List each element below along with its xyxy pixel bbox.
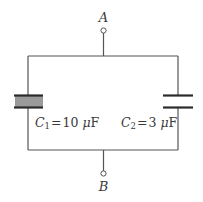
c1-equals: = xyxy=(51,115,61,130)
c1-unit-prefix: μ xyxy=(82,115,90,130)
terminal-a-label: A xyxy=(98,10,108,25)
c2-symbol: C xyxy=(121,115,131,130)
terminal-b-label: B xyxy=(98,179,109,194)
capacitor-c2 xyxy=(163,96,193,108)
terminal-b: B xyxy=(98,171,109,194)
c1-symbol: C xyxy=(35,115,45,130)
c1-dielectric xyxy=(15,96,43,107)
c2-label: C2=3μF xyxy=(121,115,178,131)
terminal-a: A xyxy=(98,10,108,33)
circuit-wires xyxy=(28,33,178,171)
parallel-capacitor-circuit: A B C1=10μF C2=3μF xyxy=(0,0,203,202)
capacitor-c1 xyxy=(14,96,43,108)
c2-equals: = xyxy=(137,115,147,130)
c1-subscript: 1 xyxy=(45,121,50,131)
c2-value: 3 xyxy=(148,115,156,130)
c1-value: 10 xyxy=(62,115,78,130)
terminal-a-node-icon xyxy=(101,28,106,33)
c1-unit: F xyxy=(91,115,100,130)
c1-label: C1=10μF xyxy=(35,115,100,131)
c2-subscript: 2 xyxy=(131,121,136,131)
c2-unit: F xyxy=(169,115,178,130)
terminal-b-node-icon xyxy=(101,171,106,176)
c2-unit-prefix: μ xyxy=(160,115,168,130)
